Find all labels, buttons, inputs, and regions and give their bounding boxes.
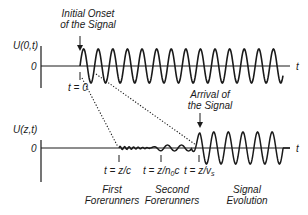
top-y-axis-label: U(0,t) [13, 40, 38, 51]
bottom-t-label: t [296, 143, 299, 154]
top-t-label: t [296, 61, 299, 72]
arrival-line2: the Signal [178, 100, 242, 111]
onset-line2: of the Signal [48, 19, 128, 30]
marker-z-over-vs: t = z/vs [184, 165, 214, 179]
t0-label: t = 0 [68, 82, 88, 93]
arrival-line1: Arrival of [178, 89, 242, 100]
onset-annotation: Initial Onset of the Signal [48, 8, 128, 30]
diagram-canvas [0, 0, 308, 215]
arrival-arrow-head [197, 122, 203, 128]
region-first-forerunners: First Forerunners [84, 184, 140, 206]
onset-line1: Initial Onset [48, 8, 128, 19]
region-signal-evolution: Signal Evolution [222, 184, 272, 206]
top-zero-label: 0 [31, 61, 37, 72]
marker-z-over-c: t = z/c [104, 165, 131, 176]
arrival-annotation: Arrival of the Signal [178, 89, 242, 111]
marker-z-over-n0c: t = z/n0c [143, 165, 179, 179]
bottom-y-axis-label: U(z,t) [13, 124, 37, 135]
region-second-forerunners: Second Forerunners [142, 184, 202, 206]
bottom-zero-label: 0 [31, 143, 37, 154]
